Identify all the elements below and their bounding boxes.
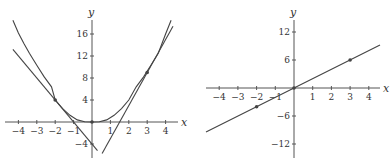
right-x-tick-label: 2 xyxy=(329,92,335,102)
left-x-tick-label: 2 xyxy=(126,126,132,136)
right-x-tick-label: 1 xyxy=(310,92,316,102)
left-x-axis-label: x xyxy=(181,116,188,129)
left-y-tick-label: 12 xyxy=(77,51,88,61)
right-y-tick-label: 6 xyxy=(284,55,290,65)
left-y-tick-label: 16 xyxy=(77,29,89,39)
left-x-tick-label: 3 xyxy=(144,126,150,136)
data-point xyxy=(255,105,259,109)
data-point xyxy=(348,58,352,62)
right-y-axis-label: y xyxy=(289,6,297,19)
right-y-tick-label: −12 xyxy=(271,139,290,149)
right-x-tick-label: −2 xyxy=(250,92,263,102)
right-x-tick-label: 3 xyxy=(347,92,353,102)
left-y-axis-label: y xyxy=(87,6,95,19)
right-y-tick-label: 12 xyxy=(279,27,290,37)
right-y-tick-label: −6 xyxy=(277,111,291,121)
origin-point xyxy=(292,86,296,90)
left-y-tick-label: −4 xyxy=(75,139,89,149)
left-chart: x y −4 −3 −2 −1 1 2 3 4 1 xyxy=(5,6,188,158)
left-x-tick-label: −4 xyxy=(12,126,26,136)
tangent-point xyxy=(53,98,57,102)
left-x-tick-label: −3 xyxy=(30,126,44,136)
tangent-point xyxy=(145,71,149,75)
left-x-tick-label: 4 xyxy=(163,126,169,136)
right-x-tick-label: 4 xyxy=(366,92,372,102)
vertex-point xyxy=(90,120,94,124)
right-x-axis-label: x xyxy=(383,82,390,95)
right-x-tick-label: −3 xyxy=(231,92,245,102)
left-x-tick-label: −2 xyxy=(49,126,62,136)
left-y-tick-label: 4 xyxy=(82,95,88,105)
charts-canvas: x y −4 −3 −2 −1 1 2 3 4 1 xyxy=(0,0,390,161)
right-chart: x y −4 −3 −2 −1 1 2 3 4 12 6 − xyxy=(206,6,390,158)
left-y-tick-label: 8 xyxy=(82,73,88,83)
right-x-tick-label: −4 xyxy=(213,92,227,102)
